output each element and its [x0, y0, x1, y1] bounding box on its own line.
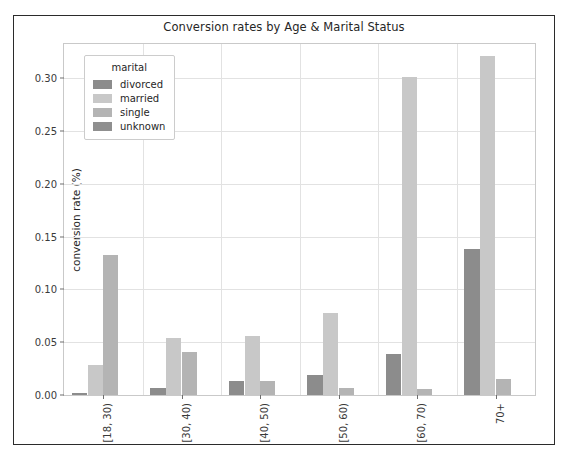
- page-title: Conversion rates by Age & Marital Status: [14, 20, 554, 34]
- legend-swatch-icon: [93, 108, 112, 117]
- legend-title: marital: [93, 62, 165, 73]
- x-tick-label: [30, 40): [180, 403, 191, 443]
- plot-area: conversion rate (%) age group 0.000.050.…: [63, 43, 536, 396]
- x-tick-label: [18, 30): [102, 403, 113, 443]
- legend-item-label: married: [120, 93, 159, 104]
- legend-rows: divorcedmarriedsingleunknown: [93, 77, 165, 133]
- bar-married-0: [88, 365, 103, 395]
- bar-divorced-0: [72, 393, 87, 395]
- bar-married-5: [480, 56, 495, 395]
- y-tick-label: 0.10: [35, 284, 57, 295]
- bar-married-1: [166, 338, 181, 395]
- bar-divorced-3: [307, 375, 322, 395]
- bar-single-0: [103, 255, 118, 395]
- y-tick-label: 0.05: [35, 337, 57, 348]
- y-tick-label: 0.30: [35, 73, 57, 84]
- legend-item-single: single: [93, 105, 165, 119]
- x-tick-mark: [417, 395, 418, 399]
- bar-divorced-4: [386, 354, 401, 395]
- bar-divorced-5: [464, 249, 479, 395]
- legend-item-unknown: unknown: [93, 119, 165, 133]
- legend-item-married: married: [93, 91, 165, 105]
- x-tick-mark: [496, 395, 497, 399]
- y-tick-label: 0.00: [35, 390, 57, 401]
- bar-divorced-2: [229, 381, 244, 395]
- x-tick-label: 70+: [494, 403, 505, 424]
- legend-swatch-icon: [93, 94, 112, 103]
- y-tick-label: 0.20: [35, 178, 57, 189]
- y-tick-label: 0.25: [35, 126, 57, 137]
- bar-single-2: [260, 381, 275, 395]
- legend-swatch-icon: [93, 80, 112, 89]
- x-tick-mark: [339, 395, 340, 399]
- legend: marital divorcedmarriedsingleunknown: [84, 55, 175, 140]
- bar-single-5: [496, 379, 511, 395]
- legend-item-divorced: divorced: [93, 77, 165, 91]
- x-tick-mark: [103, 395, 104, 399]
- x-tick-mark: [182, 395, 183, 399]
- legend-swatch-icon: [93, 122, 112, 131]
- bar-single-3: [339, 388, 354, 395]
- bar-married-4: [402, 77, 417, 395]
- legend-item-label: unknown: [120, 121, 165, 132]
- bar-divorced-1: [150, 388, 165, 395]
- legend-item-label: single: [120, 107, 150, 118]
- y-tick-label: 0.15: [35, 231, 57, 242]
- bar-single-1: [182, 352, 197, 395]
- bar-married-3: [323, 313, 338, 395]
- legend-item-label: divorced: [120, 79, 163, 90]
- x-tick-mark: [260, 395, 261, 399]
- bar-married-2: [245, 336, 260, 395]
- x-tick-label: [60, 70): [416, 403, 427, 443]
- figure-canvas: Conversion rates by Age & Marital Status…: [13, 15, 555, 445]
- x-tick-label: [50, 60): [337, 403, 348, 443]
- bar-single-4: [417, 389, 432, 395]
- x-tick-label: [40, 50): [259, 403, 270, 443]
